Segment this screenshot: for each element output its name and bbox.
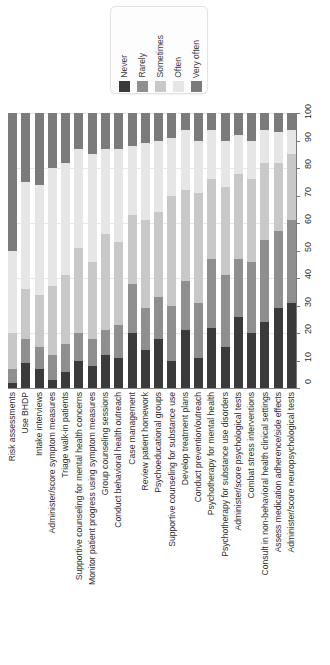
bar[interactable] <box>154 113 163 388</box>
legend-item[interactable]: Rarely <box>133 10 151 92</box>
bar-segment <box>207 179 216 259</box>
bar-segment <box>74 361 83 389</box>
category-label-cell: Intake interviews <box>35 392 44 456</box>
category-label-cell: Develop treatment plans <box>181 392 190 485</box>
category-label-cell: Use BHDP <box>21 392 30 434</box>
legend-items: NeverRarelySometimesOftenVery often <box>115 10 205 92</box>
category-label-cell: Administer/score neuropsychological test… <box>287 392 296 553</box>
value-axis-tick <box>296 333 300 334</box>
bar-segment <box>48 168 57 286</box>
legend-item[interactable]: Very often <box>187 10 205 92</box>
bar-segment <box>114 358 123 388</box>
bar[interactable] <box>260 113 269 388</box>
legend-item-label: Sometimes <box>156 35 165 78</box>
bar-segment <box>35 295 44 347</box>
bar[interactable] <box>287 113 296 388</box>
bar[interactable] <box>141 113 150 388</box>
bar[interactable] <box>101 113 110 388</box>
legend-item-label: Very often <box>192 40 201 78</box>
category-label: Develop treatment plans <box>181 392 190 485</box>
bar-segment <box>234 174 243 259</box>
category-label-cell: Administer/score symptom measures <box>48 392 57 533</box>
bar-segment <box>101 149 110 234</box>
bar-segment <box>8 113 17 251</box>
bar-segment <box>287 130 296 155</box>
bar[interactable] <box>274 113 283 388</box>
bar[interactable] <box>48 113 57 388</box>
legend-item[interactable]: Sometimes <box>151 10 169 92</box>
bar[interactable] <box>207 113 216 388</box>
bar[interactable] <box>247 113 256 388</box>
bar-segment <box>234 259 243 317</box>
bar-segment <box>194 193 203 303</box>
bar-segment <box>221 347 230 388</box>
bar-segment <box>114 242 123 325</box>
category-label: Administer/score symptom measures <box>48 392 57 533</box>
bar[interactable] <box>114 113 123 388</box>
bar-segment <box>247 262 256 334</box>
bar-segment <box>61 372 70 389</box>
bar-segment <box>221 275 230 347</box>
bar-segment <box>260 240 269 323</box>
bar-segment <box>181 190 190 281</box>
bar-segment <box>128 215 137 284</box>
bar-segment <box>274 113 283 132</box>
bar[interactable] <box>181 113 190 388</box>
bar-segment <box>35 185 44 295</box>
bar[interactable] <box>8 113 17 388</box>
bar[interactable] <box>88 113 97 388</box>
bar-segment <box>88 339 97 367</box>
value-axis-tick-label: 0 <box>304 379 313 384</box>
bar-segment <box>88 113 97 154</box>
legend-item[interactable]: Often <box>169 10 187 92</box>
bar-segment <box>221 187 230 275</box>
bar-segment <box>154 297 163 338</box>
category-label: Use BHDP <box>21 392 30 434</box>
bar-segment <box>274 132 283 162</box>
value-axis-tick-label: 20 <box>304 324 313 334</box>
bar[interactable] <box>221 113 230 388</box>
category-label-cell: Supportive counseling for substance use <box>167 392 176 547</box>
bar-segment <box>167 361 176 389</box>
bar[interactable] <box>35 113 44 388</box>
bar[interactable] <box>234 113 243 388</box>
bar-segment <box>114 325 123 358</box>
category-label: Psychotherapy for substance use disorder… <box>221 392 230 557</box>
value-axis-tick-label: 60 <box>304 214 313 224</box>
bar-segment <box>260 130 269 163</box>
bar[interactable] <box>74 113 83 388</box>
bar-segment <box>101 234 110 330</box>
category-label-cell: Risk assessments <box>8 392 17 461</box>
value-axis-tick <box>296 113 300 114</box>
legend-item-label: Never <box>120 55 129 78</box>
bar-segment <box>181 281 190 331</box>
bar-segment <box>234 113 243 135</box>
value-axis-tick-label: 100 <box>304 104 313 119</box>
value-axis-tick <box>296 196 300 197</box>
value-axis-tick-label: 50 <box>304 242 313 252</box>
category-label: Administer/score neuropsychological test… <box>287 392 296 553</box>
bar-segment <box>274 308 283 388</box>
bar-segment <box>88 262 97 339</box>
chart-figure: NeverRarelySometimesOftenVery often 0102… <box>0 0 330 665</box>
category-label-cell: Administer/score psychological tests <box>234 392 243 531</box>
category-label: Psychotherapy for mental health <box>207 392 216 515</box>
legend-item[interactable]: Never <box>115 10 133 92</box>
bar-segment <box>141 350 150 389</box>
bar[interactable] <box>194 113 203 388</box>
value-axis-tick <box>296 388 300 389</box>
bar-segment <box>128 333 137 388</box>
bar-segment <box>274 231 283 308</box>
bar-segment <box>61 344 70 372</box>
bar[interactable] <box>21 113 30 388</box>
category-axis-labels: Risk assessmentsUse BHDPIntake interview… <box>8 392 296 660</box>
bar-segment <box>21 182 30 289</box>
bar[interactable] <box>167 113 176 388</box>
bar[interactable] <box>61 113 70 388</box>
bar-segment <box>74 113 83 149</box>
plot-area <box>8 113 296 388</box>
bar[interactable] <box>128 113 137 388</box>
category-label: Administer/score psychological tests <box>234 392 243 531</box>
bar-segment <box>181 330 190 388</box>
category-label-cell: Conduct behavioral health outreach <box>114 392 123 528</box>
